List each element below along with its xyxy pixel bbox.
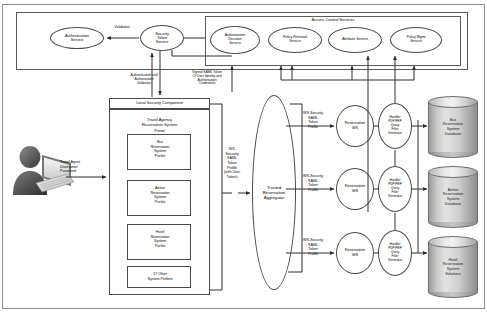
portlet-other[interactable]: 17 Other System Portlets [127,266,191,288]
authorization-decision-service-label: Authorization Decision Service [225,34,245,46]
attribute-service-node[interactable]: Attribute Service [328,27,382,53]
attribute-service-label: Attribute Service [342,38,368,42]
reservation-ws-node-2[interactable]: Reservation WS [336,168,374,210]
local-security-component-label: Local Security Component [109,101,210,106]
security-token-service-label: Security Token Service [155,32,169,45]
handler-node-2[interactable]: Handler PDP/PEP Query Filter Generator [378,166,412,212]
auth-validation-flow-label: Authentication and Authorization Validat… [116,74,172,85]
trusted-reservation-aggregator-label: Trusted Reservation Aggregator [263,185,285,201]
ws-security-profile-label-1: WS-Security SAML Token Profile [296,111,330,130]
authorization-decision-service-node[interactable]: Authorization Decision Service [210,26,260,54]
reservation-ws-node-1[interactable]: Reservation WS [336,105,374,147]
policy-retrieval-service-label: Policy Retrieval Service [283,36,307,44]
diagram-canvas: Authentication Service Security Token Se… [0,0,487,312]
travel-agent-credentials-label: Travel Agent Username/ Password [60,160,108,174]
portlet-bus-label: Bus Reservation System Portlet [128,140,192,158]
policy-retrieval-service-node[interactable]: Policy Retrieval Service [268,27,322,53]
database-hotel-label: Hotel Reservation System Solutions [428,236,478,298]
authentication-service-label: Authentication Service [65,34,89,43]
signed-saml-flow-label: Signed SAML Token Of User Identity and A… [176,71,238,86]
database-bus[interactable]: Bus Reservation System Database [428,96,478,158]
handler-node-3[interactable]: Handler PDP/PEP Query Filter Generator [378,230,412,276]
portlet-hotel[interactable]: Hotel Reservation System Portlet [127,224,191,260]
database-airline-label: Airline Reservation System Database [428,166,478,228]
handler-label-3: Handler PDP/PEP Query Filter Generator [388,243,402,262]
authentication-service-node[interactable]: Authentication Service [50,27,104,49]
reservation-ws-label-3: Reservation WS [345,248,365,257]
portlet-hotel-label: Hotel Reservation System Portlet [128,230,192,248]
ws-security-profile-label-3: WS-Security SAML Token Profile [296,238,330,257]
database-hotel[interactable]: Hotel Reservation System Solutions [428,236,478,298]
policy-mgmt-service-node[interactable]: Policy Mgmt Service [390,27,442,53]
portlet-airline[interactable]: Airline Reservation System Portlet [127,180,191,216]
portlet-airline-label: Airline Reservation System Portlet [128,186,192,204]
security-token-service-node[interactable]: Security Token Service [140,25,184,51]
reservation-ws-label-2: Reservation WS [345,184,365,193]
reservation-ws-label-1: Reservation WS [345,121,365,130]
portlet-other-label: 17 Other System Portlets [128,272,192,281]
access-control-services-title: Access Control Services [258,18,408,23]
database-airline[interactable]: Airline Reservation System Database [428,166,478,228]
ws-security-profile-label-2: WS-Security SAML Token Profile [296,174,330,193]
reservation-ws-node-3[interactable]: Reservation WS [336,232,374,274]
handler-node-1[interactable]: Handler PDP/PEP Query Filter Generator [378,103,412,149]
policy-mgmt-service-label: Policy Mgmt Service [406,36,425,44]
travel-agency-portal-title: Travel Agency Reservation System Portal [112,117,207,133]
ws-security-user-token-label: WS- Security SAML Token Profile (with Us… [216,147,248,179]
validation-flow-label: Validation [104,25,140,29]
handler-label-1: Handler PDP/PEP Query Filter Generator [388,116,402,135]
trusted-reservation-aggregator-node[interactable]: Trusted Reservation Aggregator [252,95,296,290]
handler-label-2: Handler PDP/PEP Query Filter Generator [388,179,402,198]
database-bus-label: Bus Reservation System Database [428,96,478,158]
portlet-bus[interactable]: Bus Reservation System Portlet [127,134,191,170]
